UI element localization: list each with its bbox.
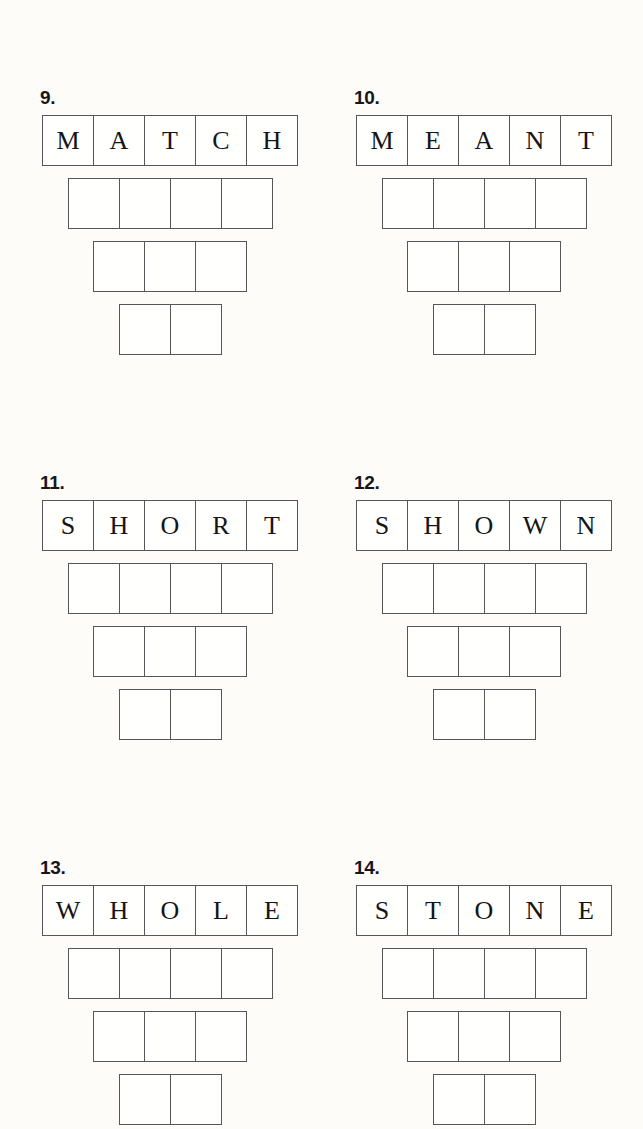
answer-letter-cell[interactable]	[119, 563, 171, 614]
puzzle-number: 9.	[40, 88, 331, 107]
word-ladder: MEANT	[354, 115, 614, 367]
answer-letter-cell[interactable]	[68, 948, 120, 999]
answer-letter-cell[interactable]	[119, 948, 171, 999]
clue-word-row: MATCH	[42, 115, 298, 166]
answer-letter-cell[interactable]	[170, 948, 222, 999]
answer-letter-cell[interactable]	[93, 241, 145, 292]
answer-letter-cell[interactable]	[484, 304, 536, 355]
answer-letter-cell[interactable]	[433, 178, 485, 229]
answer-letter-cell[interactable]	[433, 948, 485, 999]
answer-letter-cell[interactable]	[509, 1011, 561, 1062]
answer-letter-cell[interactable]	[119, 304, 171, 355]
answer-row-2	[119, 1074, 222, 1125]
answer-letter-cell[interactable]	[195, 1011, 247, 1062]
answer-letter-cell[interactable]	[433, 304, 485, 355]
clue-letter-cell: N	[509, 115, 561, 166]
answer-letter-cell[interactable]	[433, 563, 485, 614]
answer-letter-cell[interactable]	[382, 563, 434, 614]
word-ladder: STONE	[354, 885, 614, 1129]
answer-letter-cell[interactable]	[93, 1011, 145, 1062]
answer-letter-cell[interactable]	[484, 689, 536, 740]
clue-word-row: WHOLE	[42, 885, 298, 936]
answer-letter-cell[interactable]	[170, 178, 222, 229]
answer-letter-cell[interactable]	[93, 626, 145, 677]
answer-row-4	[68, 563, 273, 614]
answer-letter-cell[interactable]	[535, 563, 587, 614]
answer-row-3	[407, 1011, 561, 1062]
answer-letter-cell[interactable]	[144, 626, 196, 677]
clue-letter-cell: S	[356, 885, 408, 936]
word-ladder: WHOLE	[40, 885, 300, 1129]
answer-letter-cell[interactable]	[119, 689, 171, 740]
answer-letter-cell[interactable]	[433, 1074, 485, 1125]
clue-letter-cell: O	[144, 885, 196, 936]
clue-letter-cell: T	[246, 500, 298, 551]
answer-letter-cell[interactable]	[535, 178, 587, 229]
answer-letter-cell[interactable]	[484, 948, 536, 999]
answer-letter-cell[interactable]	[195, 241, 247, 292]
answer-letter-cell[interactable]	[458, 241, 510, 292]
answer-letter-cell[interactable]	[170, 304, 222, 355]
answer-row-2	[433, 1074, 536, 1125]
answer-letter-cell[interactable]	[407, 1011, 459, 1062]
clue-letter-cell: E	[560, 885, 612, 936]
answer-letter-cell[interactable]	[484, 1074, 536, 1125]
clue-letter-cell: S	[356, 500, 408, 551]
answer-row-2	[119, 689, 222, 740]
answer-letter-cell[interactable]	[382, 948, 434, 999]
puzzle-meant: 10.MEANT	[345, 88, 643, 367]
answer-row-2	[433, 689, 536, 740]
answer-row-4	[382, 563, 587, 614]
puzzle-whole: 13.WHOLE	[31, 858, 331, 1129]
answer-letter-cell[interactable]	[119, 1074, 171, 1125]
answer-letter-cell[interactable]	[170, 563, 222, 614]
answer-letter-cell[interactable]	[509, 626, 561, 677]
clue-letter-cell: E	[246, 885, 298, 936]
answer-letter-cell[interactable]	[509, 241, 561, 292]
answer-letter-cell[interactable]	[144, 241, 196, 292]
answer-letter-cell[interactable]	[144, 1011, 196, 1062]
clue-word-row: SHOWN	[356, 500, 612, 551]
answer-letter-cell[interactable]	[433, 689, 485, 740]
puzzle-short: 11.SHORT	[31, 473, 331, 752]
answer-row-3	[407, 626, 561, 677]
answer-row-2	[433, 304, 536, 355]
word-ladder: SHOWN	[354, 500, 614, 752]
answer-letter-cell[interactable]	[484, 178, 536, 229]
answer-letter-cell[interactable]	[119, 178, 171, 229]
answer-letter-cell[interactable]	[68, 178, 120, 229]
clue-letter-cell: H	[246, 115, 298, 166]
clue-letter-cell: S	[42, 500, 94, 551]
answer-letter-cell[interactable]	[195, 626, 247, 677]
clue-letter-cell: T	[144, 115, 196, 166]
answer-letter-cell[interactable]	[407, 626, 459, 677]
answer-letter-cell[interactable]	[458, 1011, 510, 1062]
clue-letter-cell: O	[458, 500, 510, 551]
clue-letter-cell: M	[356, 115, 408, 166]
puzzle-match: 9.MATCH	[31, 88, 331, 367]
answer-row-2	[119, 304, 222, 355]
answer-letter-cell[interactable]	[458, 626, 510, 677]
clue-letter-cell: H	[407, 500, 459, 551]
clue-letter-cell: M	[42, 115, 94, 166]
clue-letter-cell: N	[509, 885, 561, 936]
clue-letter-cell: E	[407, 115, 459, 166]
answer-letter-cell[interactable]	[535, 948, 587, 999]
clue-letter-cell: R	[195, 500, 247, 551]
answer-row-4	[68, 948, 273, 999]
answer-letter-cell[interactable]	[170, 1074, 222, 1125]
answer-letter-cell[interactable]	[484, 563, 536, 614]
answer-letter-cell[interactable]	[68, 563, 120, 614]
clue-letter-cell: O	[144, 500, 196, 551]
answer-row-4	[382, 948, 587, 999]
clue-letter-cell: T	[407, 885, 459, 936]
answer-letter-cell[interactable]	[170, 689, 222, 740]
answer-letter-cell[interactable]	[407, 241, 459, 292]
answer-letter-cell[interactable]	[221, 178, 273, 229]
clue-letter-cell: W	[42, 885, 94, 936]
puzzle-stone: 14.STONE	[345, 858, 643, 1129]
answer-letter-cell[interactable]	[221, 948, 273, 999]
answer-letter-cell[interactable]	[221, 563, 273, 614]
answer-letter-cell[interactable]	[382, 178, 434, 229]
